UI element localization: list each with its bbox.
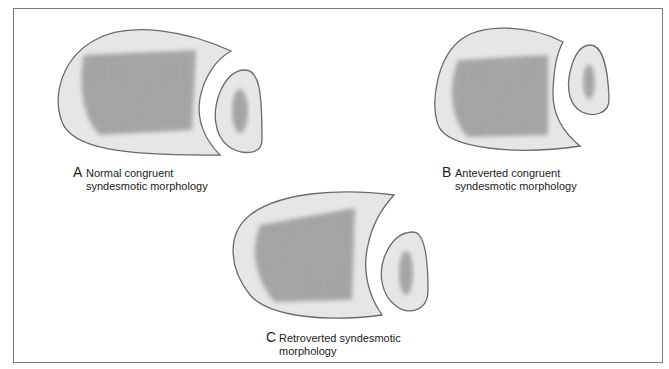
panel-c-fibula — [381, 232, 428, 311]
panel-a-line2: syndesmotic morphology — [86, 180, 208, 193]
panel-b-line2: syndesmotic morphology — [455, 180, 577, 193]
panel-c-tibia — [233, 192, 394, 318]
panel-a-fibula — [215, 70, 262, 152]
panel-b-line1: Anteverted congruent — [455, 167, 560, 180]
panel-c-letter: C — [266, 331, 276, 344]
panel-c-line2: morphology — [279, 345, 336, 358]
panel-a-tibia — [58, 30, 231, 155]
panel-a-letter: A — [73, 166, 82, 179]
panel-b-fibula — [569, 45, 610, 114]
panel-c-line1: Retroverted syndesmotic — [279, 332, 401, 345]
panel-b-letter: B — [442, 166, 451, 179]
panel-a-line1: Normal congruent — [86, 167, 173, 180]
panel-b-tibia — [435, 28, 580, 150]
